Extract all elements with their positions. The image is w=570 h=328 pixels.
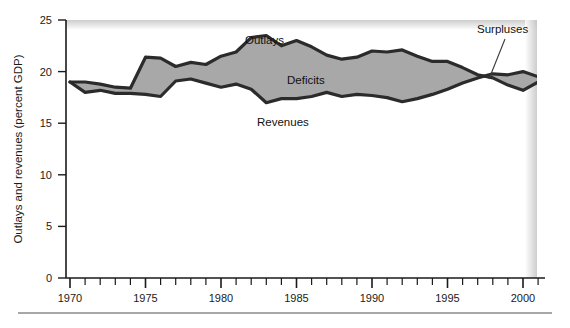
chart-figure: 25 20 15 10 5 0 Outlays and revenues (pe… (0, 0, 570, 328)
x-tick-label-1990: 1990 (360, 292, 384, 304)
y-axis-title: Outlays and revenues (percent GDP) (12, 54, 24, 243)
y-tick-label-15: 15 (40, 117, 52, 129)
x-tick-label-1995: 1995 (435, 292, 459, 304)
annotation-revenues: Revenues (257, 116, 309, 128)
y-tick-label-20: 20 (40, 66, 52, 78)
plot-frame-top-shadow (66, 20, 537, 30)
chart-svg: 25 20 15 10 5 0 Outlays and revenues (pe… (0, 0, 570, 328)
y-tick-label-10: 10 (40, 169, 52, 181)
x-tick-label-1970: 1970 (58, 292, 82, 304)
y-tick-label-5: 5 (46, 220, 52, 232)
annotation-deficits: Deficits (287, 74, 325, 86)
y-tick-label-25: 25 (40, 14, 52, 26)
x-tick-label-1975: 1975 (133, 292, 157, 304)
annotation-surpluses: Surpluses (477, 23, 528, 35)
annotation-outlays: Outlays (245, 34, 284, 46)
x-tick-label-1985: 1985 (284, 292, 308, 304)
x-tick-label-1980: 1980 (209, 292, 233, 304)
y-tick-label-0: 0 (46, 272, 52, 284)
plot-frame-right-shadow (525, 20, 537, 278)
x-tick-label-2000: 2000 (511, 292, 535, 304)
